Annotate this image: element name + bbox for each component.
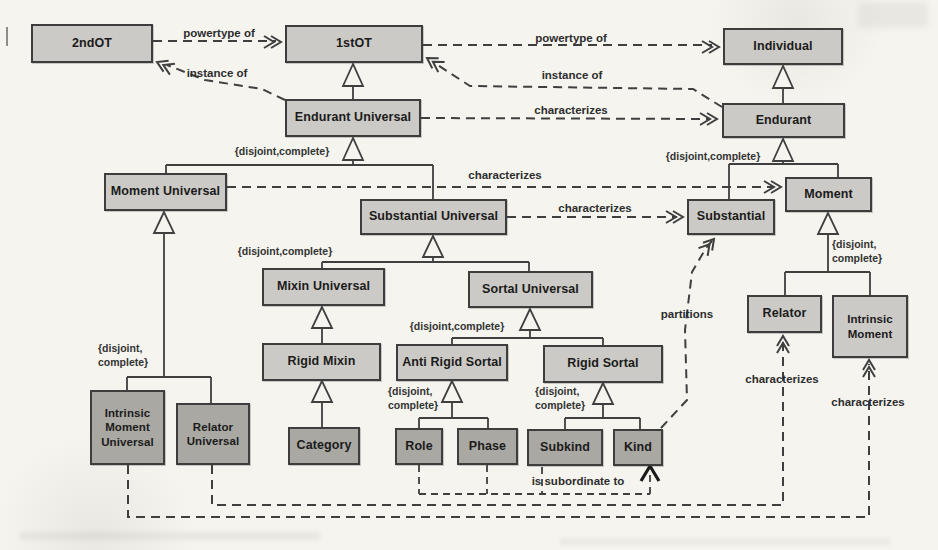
constraint-label-moment-universal: {disjoint, complete} <box>98 342 148 369</box>
dep-partitions-kind-substantial <box>661 241 712 428</box>
arrowhead-icon-into-substantial-left <box>666 211 683 223</box>
node-2ndot: 2ndOT <box>31 24 153 63</box>
node-moment: Moment <box>785 177 872 212</box>
node-phase: Phase <box>457 428 518 465</box>
node-kind: Kind <box>613 429 663 466</box>
node-subkind: Subkind <box>527 429 603 466</box>
node-sortal-universal: Sortal Universal <box>468 271 593 308</box>
node-intrinsic-moment-universal: Intrinsic Moment Universal <box>90 390 165 465</box>
node-substantial-universal: Substantial Universal <box>360 199 507 235</box>
node-relator: Relator <box>747 295 822 333</box>
arrowhead-icon-into-substantial-bottom <box>698 235 718 256</box>
node-endurant-universal: Endurant Universal <box>285 99 421 137</box>
triangle-icon-endurant <box>773 139 793 161</box>
node-role: Role <box>395 428 443 465</box>
edge-label-characterizes-endurant: characterizes <box>534 103 608 118</box>
constraint-label-sortal-universal: {disjoint,complete} <box>410 320 505 334</box>
triangle-icon-rigid-mixin <box>312 381 332 402</box>
node-anti-rigid-sortal: Anti Rigid Sortal <box>396 344 508 381</box>
arrowhead-icon-into-endurant <box>700 113 717 125</box>
edge-label-powertype-of-1: powertype of <box>183 26 255 41</box>
edge-label-characterizes-substantial: characterizes <box>558 201 632 216</box>
edge-label-characterizes-relator: characterizes <box>745 372 819 387</box>
edge-label-characterizes-intrinsic-moment: characterizes <box>831 395 905 410</box>
node-rigid-mixin: Rigid Mixin <box>262 343 381 381</box>
triangle-icon-rigid-sortal <box>593 383 613 404</box>
node-mixin-universal: Mixin Universal <box>262 268 385 306</box>
edge-label-characterizes-moment: characterizes <box>468 168 542 183</box>
node-moment-universal: Moment Universal <box>104 173 227 211</box>
triangle-icon-moment <box>818 213 838 234</box>
constraint-label-substantial-universal: {disjoint,complete} <box>238 245 333 259</box>
edge-label-instance-of-1: instance of <box>187 66 248 81</box>
arrowhead-icon-into-moment <box>764 181 781 193</box>
node-relator-universal: Relator Universal <box>176 403 250 465</box>
triangle-icon-moment-universal <box>154 212 174 233</box>
ontology-class-diagram: 2ndOT 1stOT Individual Endurant Universa… <box>0 0 938 550</box>
triangle-icon-individual <box>773 66 793 88</box>
triangle-icon-1stot <box>343 64 363 86</box>
triangle-icon-endurant-universal <box>343 138 363 160</box>
dep-characterizes-eu-endurant <box>421 118 710 119</box>
node-individual: Individual <box>723 28 843 65</box>
node-1stot: 1stOT <box>285 25 423 63</box>
arrowhead-icon-into-individual <box>702 41 719 53</box>
arrowhead-icon-into-2ndot <box>154 57 174 75</box>
constraint-label-rigid-sortal: {disjoint, complete} <box>535 385 585 412</box>
edge-label-is-subordinate-to: is subordinate to <box>532 474 625 489</box>
node-intrinsic-moment: Intrinsic Moment <box>832 295 908 358</box>
triangle-icon-anti-rigid-sortal <box>442 381 462 402</box>
triangle-icon-mixin-universal <box>312 307 332 328</box>
arrowhead-icon-into-1stot-corner <box>424 53 445 72</box>
gen-line-set-moment-universal <box>127 233 211 403</box>
triangle-icon-sortal-universal <box>520 309 540 330</box>
constraint-label-endurant-universal: {disjoint,complete} <box>235 145 330 159</box>
node-substantial: Substantial <box>687 199 775 235</box>
node-category: Category <box>288 427 360 465</box>
constraint-label-moment: {disjoint, complete} <box>832 238 882 265</box>
triangle-icon-substantial-universal <box>423 236 443 257</box>
constraint-label-anti-rigid-sortal: {disjoint, complete} <box>388 385 438 412</box>
node-endurant: Endurant <box>722 103 845 138</box>
edge-label-powertype-of-2: powertype of <box>535 31 607 46</box>
edge-label-instance-of-2: instance of <box>542 68 603 83</box>
constraint-label-endurant: {disjoint,complete} <box>666 150 761 164</box>
node-rigid-sortal: Rigid Sortal <box>543 345 663 383</box>
edge-label-partitions: partitions <box>661 307 713 322</box>
